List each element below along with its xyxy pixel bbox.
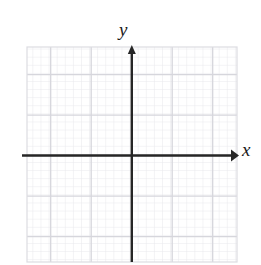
x-axis-label: x (242, 140, 250, 159)
coordinate-grid-svg (0, 0, 261, 265)
coordinate-plane-figure: y x (0, 0, 261, 265)
y-axis-label: y (119, 20, 127, 39)
